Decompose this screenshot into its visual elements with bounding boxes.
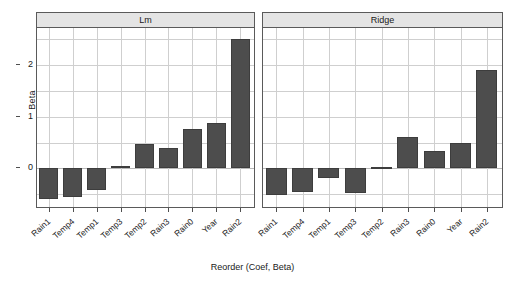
x-tick-mark	[49, 208, 50, 212]
panel-ridge-strip: Ridge	[263, 13, 502, 28]
gridline-vertical	[216, 28, 217, 207]
y-tick-label: 0	[19, 162, 33, 172]
bar	[87, 168, 106, 190]
panel-lm: Lm	[36, 12, 255, 208]
y-tick-mark	[16, 116, 20, 117]
gridline-vertical	[382, 28, 383, 207]
panel-ridge: Ridge	[262, 12, 503, 208]
x-tick-mark	[382, 208, 383, 212]
x-tick-mark	[168, 208, 169, 212]
gridline-vertical	[408, 28, 409, 207]
bar	[135, 144, 154, 169]
panel-lm-strip: Lm	[37, 13, 254, 28]
bar	[318, 168, 339, 177]
chart-root: 012 Beta Reorder (Coef, Beta) Lm Ridge R…	[0, 0, 505, 285]
x-tick-mark	[276, 208, 277, 212]
x-tick-mark	[121, 208, 122, 212]
bar	[345, 168, 366, 193]
x-tick-mark	[329, 208, 330, 212]
gridline-vertical	[461, 28, 462, 207]
panel-lm-plot-area	[37, 28, 254, 207]
bar	[397, 137, 418, 168]
bar	[450, 143, 471, 168]
bar	[111, 166, 130, 168]
bar	[207, 123, 226, 168]
bar	[266, 168, 287, 195]
gridline-vertical	[145, 28, 146, 207]
bar	[183, 129, 202, 168]
bar	[231, 39, 250, 168]
x-tick-mark	[145, 208, 146, 212]
x-tick-mark	[97, 208, 98, 212]
panel-lm-title: Lm	[139, 15, 152, 25]
bar	[63, 168, 82, 197]
panel-ridge-title: Ridge	[371, 15, 395, 25]
gridline-vertical	[329, 28, 330, 207]
x-tick-mark	[73, 208, 74, 212]
gridline-vertical	[121, 28, 122, 207]
x-tick-mark	[408, 208, 409, 212]
x-axis-label: Reorder (Coef, Beta)	[0, 262, 505, 272]
x-tick-mark	[303, 208, 304, 212]
bar	[424, 151, 445, 168]
gridline-vertical	[434, 28, 435, 207]
bar	[371, 167, 392, 169]
gridline-vertical	[192, 28, 193, 207]
bar	[159, 148, 178, 169]
bar	[292, 168, 313, 191]
gridline-vertical	[168, 28, 169, 207]
x-tick-mark	[434, 208, 435, 212]
x-tick-mark	[355, 208, 356, 212]
y-tick-mark	[16, 167, 20, 168]
y-tick-mark	[16, 64, 20, 65]
x-tick-mark	[192, 208, 193, 212]
x-tick-mark	[240, 208, 241, 212]
x-tick-mark	[461, 208, 462, 212]
bar	[39, 168, 58, 199]
y-tick-label: 2	[19, 59, 33, 69]
x-tick-mark	[216, 208, 217, 212]
panel-ridge-plot-area	[263, 28, 502, 207]
bar	[476, 70, 497, 168]
x-tick-mark	[487, 208, 488, 212]
